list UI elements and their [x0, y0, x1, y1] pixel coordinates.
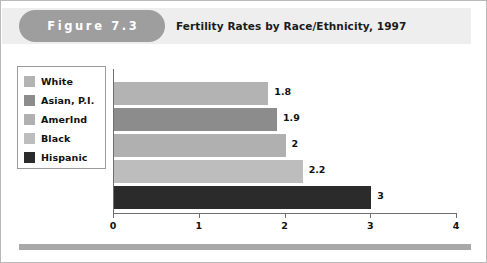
legend-item-label: Black — [41, 133, 70, 144]
legend-item: Black — [24, 129, 105, 148]
bar-row: 2 — [114, 134, 457, 157]
figure-container: Figure 7.3 Fertility Rates by Race/Ethni… — [0, 0, 487, 263]
legend-item-label: White — [41, 76, 73, 87]
bar-value-label: 3 — [377, 190, 384, 201]
legend-item-label: Hispanic — [41, 152, 88, 163]
bar-value-label: 1.8 — [274, 86, 291, 97]
x-axis-tick-label: 4 — [453, 220, 460, 231]
figure-title: Fertility Rates by Race/Ethnicity, 1997 — [176, 10, 406, 42]
bar — [114, 82, 268, 105]
bar-value-label: 2 — [292, 138, 299, 149]
x-axis-tick — [285, 213, 286, 218]
figure-number-badge: Figure 7.3 — [19, 10, 165, 42]
legend-item: Hispanic — [24, 148, 105, 167]
legend-swatch-icon — [24, 95, 35, 106]
legend-swatch-icon — [24, 76, 35, 87]
figure-footer-rule — [19, 244, 471, 250]
legend-item-label: AmerInd — [41, 114, 87, 125]
x-axis-tick-label: 2 — [281, 220, 288, 231]
bar — [114, 108, 277, 131]
x-axis-tick — [113, 213, 114, 218]
x-axis-tick — [456, 213, 457, 218]
legend-swatch-icon — [24, 133, 35, 144]
legend-swatch-icon — [24, 152, 35, 163]
bar-value-label: 2.2 — [309, 164, 326, 175]
bar — [114, 160, 303, 183]
legend-item: White — [24, 72, 105, 91]
bar-row: 2.2 — [114, 160, 457, 183]
bar-row: 3 — [114, 186, 457, 209]
x-axis-tick — [370, 213, 371, 218]
bar-row: 1.8 — [114, 82, 457, 105]
chart-legend: WhiteAsian, P.I.AmerIndBlackHispanic — [17, 66, 106, 169]
x-axis-tick — [199, 213, 200, 218]
legend-item: Asian, P.I. — [24, 91, 105, 110]
x-axis-tick-label: 1 — [195, 220, 202, 231]
bar-row: 1.9 — [114, 108, 457, 131]
bar — [114, 134, 286, 157]
plot-area: 01234 1.81.922.23 — [113, 69, 457, 213]
x-axis-tick-label: 3 — [367, 220, 374, 231]
bar-series: 1.81.922.23 — [114, 82, 457, 212]
x-axis-tick-label: 0 — [110, 220, 117, 231]
legend-swatch-icon — [24, 114, 35, 125]
legend-item-label: Asian, P.I. — [41, 95, 94, 106]
legend-item: AmerInd — [24, 110, 105, 129]
bar — [114, 186, 371, 209]
bar-value-label: 1.9 — [283, 112, 300, 123]
